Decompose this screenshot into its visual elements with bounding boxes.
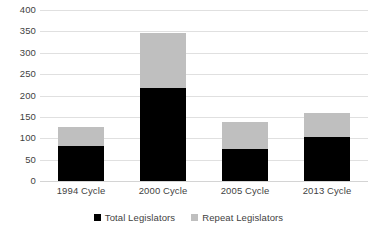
y-tick-label: 150 — [0, 112, 36, 122]
legend-entry-repeat: Repeat Legislators — [191, 212, 283, 223]
y-tick-label: 200 — [0, 91, 36, 101]
bar-segment-repeat[interactable] — [58, 127, 104, 146]
legend-entry-total: Total Legislators — [94, 212, 175, 223]
bar-segment-total[interactable] — [58, 146, 104, 181]
y-tick-label: 250 — [0, 69, 36, 79]
bar-segment-repeat[interactable] — [304, 113, 350, 137]
x-tick-label: 2005 Cycle — [200, 184, 290, 198]
legend-swatch-icon — [94, 214, 101, 221]
bar-segment-repeat[interactable] — [222, 122, 268, 149]
stacked-bar-chart: 400 350 300 250 200 150 100 50 0 1994 Cy… — [0, 0, 377, 231]
x-axis: 1994 Cycle 2000 Cycle 2005 Cycle 2013 Cy… — [40, 184, 368, 200]
bar-group[interactable] — [304, 10, 350, 181]
legend-swatch-icon — [191, 214, 198, 221]
bar-segment-total[interactable] — [304, 137, 350, 181]
y-tick-label: 350 — [0, 26, 36, 36]
bar-group[interactable] — [140, 10, 186, 181]
bar-group[interactable] — [222, 10, 268, 181]
bar-segment-repeat[interactable] — [140, 33, 186, 88]
y-tick-label: 100 — [0, 133, 36, 143]
y-tick-label: 300 — [0, 48, 36, 58]
x-tick-label: 2000 Cycle — [118, 184, 208, 198]
bar-group[interactable] — [58, 10, 104, 181]
y-tick-label: 400 — [0, 5, 36, 15]
bar-segment-total[interactable] — [140, 88, 186, 181]
legend-label: Total Legislators — [105, 212, 175, 223]
y-axis: 400 350 300 250 200 150 100 50 0 — [0, 0, 36, 191]
gridline — [40, 181, 368, 182]
x-tick-label: 1994 Cycle — [36, 184, 126, 198]
y-tick-label: 0 — [0, 176, 36, 186]
bars-layer — [40, 10, 368, 181]
x-tick-label: 2013 Cycle — [282, 184, 372, 198]
bar-segment-total[interactable] — [222, 149, 268, 181]
legend-label: Repeat Legislators — [202, 212, 283, 223]
y-tick-label: 50 — [0, 155, 36, 165]
chart-legend: Total Legislators Repeat Legislators — [0, 207, 377, 227]
